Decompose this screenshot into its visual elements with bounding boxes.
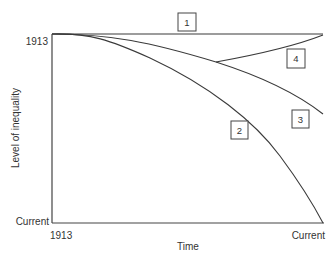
y-axis-title: Level of inequality [10,88,21,168]
curve-2 [52,34,323,223]
svg-text:2: 2 [237,125,242,136]
inequality-scenarios-chart: 1 4 3 2 1913 Current 1913 Current Time L… [0,0,335,261]
curve-4 [216,35,323,62]
label-box-1: 1 [178,13,196,31]
y-tick-top: 1913 [26,36,49,47]
x-tick-right: Current [292,230,326,241]
curve-3 [52,34,323,114]
x-axis-title: Time [177,241,199,252]
label-box-4: 4 [287,49,305,68]
x-tick-left: 1913 [50,230,73,241]
svg-text:3: 3 [298,114,303,125]
label-box-3: 3 [292,110,309,128]
svg-text:1: 1 [184,17,189,28]
label-box-2: 2 [231,121,248,139]
svg-text:4: 4 [293,53,298,64]
y-tick-bottom: Current [16,216,50,227]
